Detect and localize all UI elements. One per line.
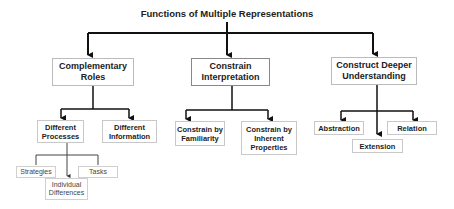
node-construct-deeper-understanding: Construct Deeper Understanding [331,57,417,85]
node-relation: Relation [387,121,437,135]
node-abstraction: Abstraction [314,121,364,135]
node-constrain-interpretation: Constrain Interpretation [191,58,270,86]
node-different-processes: Different Processes [37,120,84,143]
diagram-title: Functions of Multiple Representations [0,8,454,19]
node-extension: Extension [352,139,403,153]
node-constrain-by-familiarity: Constrain by Familiarity [175,121,225,146]
node-complementary-roles: Complementary Roles [52,58,134,86]
node-individual-differences: Individual Differences [45,178,88,200]
node-tasks: Tasks [78,166,118,178]
node-different-information: Different Information [102,120,157,143]
node-constrain-by-inherent-properties: Constrain by Inherent Properties [241,121,297,155]
node-strategies: Strategies [16,166,56,178]
